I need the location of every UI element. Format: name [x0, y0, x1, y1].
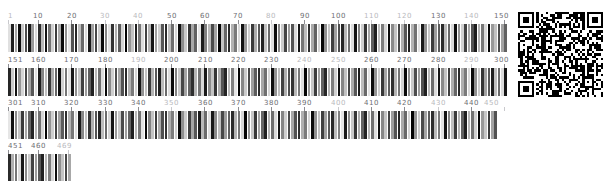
barcode-bar: [488, 111, 491, 139]
barcode-bar: [155, 111, 158, 139]
barcode-bar: [81, 111, 84, 139]
barcode-bar: [75, 111, 78, 139]
barcode-bar: [28, 24, 31, 52]
barcode-bar: [294, 111, 297, 139]
barcode-bar: [464, 24, 467, 52]
barcode-bar: [191, 24, 194, 52]
barcode-bar: [448, 111, 451, 139]
barcode-bar: [91, 24, 94, 52]
position-ruler: 3013103203303403503603703803904004104204…: [8, 99, 498, 111]
barcode-bar: [384, 24, 387, 52]
barcode-track: [8, 154, 71, 181]
barcode-bar: [155, 68, 158, 96]
barcode-bar: [498, 24, 501, 52]
barcode-bar: [301, 68, 304, 96]
barcode-bar: [18, 111, 21, 139]
barcode-bar: [414, 68, 417, 96]
barcode-bar: [181, 68, 184, 96]
barcode-bar: [454, 68, 457, 96]
barcode-bar: [45, 24, 48, 52]
barcode-bar: [95, 68, 98, 96]
barcode-bar: [374, 111, 377, 139]
barcode-bar: [258, 24, 261, 52]
barcode-bar: [171, 68, 174, 96]
barcode-bar: [211, 111, 214, 139]
barcode-bar: [115, 68, 118, 96]
barcode-bar: [111, 68, 114, 96]
barcode-bar: [165, 24, 168, 52]
barcode-bar: [264, 68, 267, 96]
barcode-bar: [251, 111, 254, 139]
barcode-bar: [38, 154, 41, 181]
barcode-bar: [281, 111, 284, 139]
barcode-bar: [238, 111, 241, 139]
barcode-bar: [264, 24, 267, 52]
barcode-bar: [165, 111, 168, 139]
barcode-bar: [481, 68, 484, 96]
ruler-tick-label: 230: [264, 56, 279, 64]
barcode-bar: [141, 111, 144, 139]
barcode-bar: [204, 111, 207, 139]
barcode-bar: [28, 68, 31, 96]
barcode-bar: [304, 24, 307, 52]
barcode-bar: [141, 24, 144, 52]
barcode-bar: [11, 24, 14, 52]
barcode-bar: [105, 68, 108, 96]
barcode-bar: [474, 24, 477, 52]
barcode-bar: [491, 111, 494, 139]
barcode-bar: [45, 68, 48, 96]
barcode-bar: [188, 111, 191, 139]
barcode-bar: [51, 111, 54, 139]
barcode-bar: [145, 68, 148, 96]
barcode-bar: [145, 24, 148, 52]
barcode-bar: [71, 68, 74, 96]
barcode-bar: [128, 111, 131, 139]
barcode-bar: [431, 68, 434, 96]
barcode-bar: [261, 24, 264, 52]
barcode-bar: [328, 68, 331, 96]
barcode-bar: [25, 24, 28, 52]
ruler-tick-label: 310: [31, 99, 46, 107]
barcode-bar: [194, 111, 197, 139]
barcode-bar: [15, 111, 18, 139]
barcode-bar: [11, 68, 14, 96]
barcode-bar: [221, 111, 224, 139]
barcode-bar: [468, 24, 471, 52]
ruler-tick-label: 270: [397, 56, 412, 64]
barcode-bar: [294, 24, 297, 52]
barcode-bar: [234, 111, 237, 139]
barcode-bar: [135, 68, 138, 96]
barcode-bar: [128, 24, 131, 52]
barcode-bar: [434, 24, 437, 52]
ruler-tick-label: 200: [164, 56, 179, 64]
barcode-bar: [388, 111, 391, 139]
barcode-bar: [354, 68, 357, 96]
barcode-bar: [314, 68, 317, 96]
barcode-bar: [401, 24, 404, 52]
barcode-bar: [401, 68, 404, 96]
barcode-bar: [364, 111, 367, 139]
barcode-bar: [258, 68, 261, 96]
barcode-bar: [131, 68, 134, 96]
barcode-bar: [438, 68, 441, 96]
barcode-row: 451460469: [8, 142, 71, 181]
barcode-bar: [98, 111, 101, 139]
barcode-bar: [371, 111, 374, 139]
barcode-bar: [361, 24, 364, 52]
barcode-bar: [374, 24, 377, 52]
barcode-bar: [45, 111, 48, 139]
barcode-bar: [25, 154, 28, 181]
barcode-bar: [201, 111, 204, 139]
barcode-bar: [444, 68, 447, 96]
barcode-bar: [388, 68, 391, 96]
ruler-tick-label: 100: [331, 12, 346, 20]
ruler-tick-label: 80: [266, 12, 276, 20]
barcode-bar: [344, 24, 347, 52]
barcode-bar: [61, 154, 64, 181]
barcode-bar: [488, 24, 491, 52]
ruler-tick-label: 90: [300, 12, 310, 20]
barcode-bar: [81, 68, 84, 96]
barcode-bar: [424, 111, 427, 139]
barcode-bar: [244, 68, 247, 96]
barcode-bar: [274, 68, 277, 96]
